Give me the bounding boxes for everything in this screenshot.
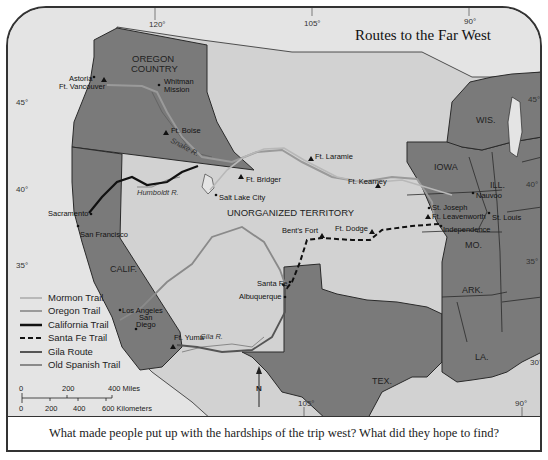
longitude-label: 105° [298, 399, 315, 408]
latitude-label: 30° [530, 358, 542, 367]
place-label-ft-yuma: Ft. Yuma [174, 333, 205, 342]
latitude-label: 45° [528, 95, 540, 104]
city-dot-icon [158, 84, 161, 87]
legend-label: Old Spanish Trail [48, 359, 120, 370]
place-label-ft-dodge: Ft. Dodge [335, 224, 368, 233]
state-label-ark: ARK. [462, 285, 483, 295]
legend-label: California Trail [48, 319, 109, 330]
place-label-albuquerque: Albuquerque [239, 292, 282, 301]
legend-label: Santa Fe Trail [48, 332, 107, 343]
place-label-ft-kearney: Ft. Kearney [348, 177, 387, 186]
scale-miles-tick: 200 [62, 384, 75, 393]
state-label-ill: ILL. [490, 180, 505, 190]
place-label-nauvoo: Nauvoo [476, 191, 502, 200]
state-label-wis: WIS. [476, 115, 496, 125]
city-dot-icon [428, 207, 431, 210]
place-label-diego: Diego [136, 320, 156, 329]
place-label-san-francisco: San Francisco [80, 230, 128, 239]
scale-km-tick: 600 Kilometers [102, 404, 152, 413]
compass-label: N [256, 384, 262, 393]
longitude-label: 120° [149, 20, 166, 29]
latitude-label: 40° [526, 180, 538, 189]
region-label-country: COUNTRY [131, 63, 178, 74]
legend-label: Oregon Trail [48, 305, 100, 316]
city-dot-icon [119, 309, 122, 312]
map: Routes to the Far West OREGON COUNTRY UN… [8, 8, 542, 418]
caption-box: What made people put up with the hardshi… [6, 416, 542, 452]
region-label-unorganized: UNORGANIZED TERRITORY [227, 207, 355, 218]
place-label-ft-boise: Ft. Boise [171, 126, 201, 135]
city-dot-icon [77, 225, 80, 228]
place-label-salt-lake-city: Salt Lake City [219, 193, 266, 202]
place-label-independence: Independence [443, 225, 491, 234]
map-title: Routes to the Far West [355, 27, 492, 43]
place-label-st-joseph: St. Joseph [432, 203, 467, 212]
place-label-ft-leavenworth: Ft. Leavenworth [432, 212, 486, 221]
city-dot-icon [488, 212, 491, 215]
scale-miles-tick: 400 Miles [108, 384, 140, 393]
latitude-label: 45° [16, 98, 28, 107]
scale-km-tick: 0 [19, 404, 23, 413]
state-label-mo: MO. [465, 240, 482, 250]
place-label-bents-fort: Bent's Fort [282, 226, 319, 235]
legend-label: Gila Route [48, 346, 93, 357]
place-label-ft-vancouver: Ft. Vancouver [59, 82, 106, 91]
scale-km-tick: 400 [73, 404, 86, 413]
scale-km-tick: 200 [45, 404, 58, 413]
city-dot-icon [472, 192, 475, 195]
state-label-iowa: IOWA [434, 162, 458, 172]
city-dot-icon [215, 194, 218, 197]
state-label-calif: CALIF. [110, 264, 137, 274]
latitude-label: 35° [526, 257, 538, 266]
latitude-label: 40° [16, 185, 28, 194]
longitude-label: 90° [464, 17, 476, 26]
river-label-humboldt: Humboldt R. [137, 188, 179, 197]
place-label-sacramento: Sacramento [48, 209, 88, 218]
legend-label: Mormon Trail [48, 292, 103, 303]
caption-text: What made people put up with the hardshi… [49, 426, 499, 441]
map-frame: Routes to the Far West OREGON COUNTRY UN… [6, 6, 542, 418]
city-dot-icon [289, 281, 292, 284]
latitude-label: 35° [16, 261, 28, 270]
longitude-label: 105° [304, 19, 321, 28]
place-label-mission: Mission [164, 85, 189, 94]
city-dot-icon [284, 296, 287, 299]
place-label-st-louis: St. Louis [492, 213, 521, 222]
scale-miles-tick: 0 [19, 384, 23, 393]
longitude-label: 90° [515, 399, 527, 408]
state-label-tex: TEX. [372, 376, 392, 386]
city-dot-icon [93, 76, 96, 79]
city-dot-icon [90, 213, 93, 216]
state-label-la: LA. [475, 352, 489, 362]
place-label-ft-laramie: Ft. Laramie [315, 152, 353, 161]
place-label-ft-bridger: Ft. Bridger [246, 175, 282, 184]
city-dot-icon [440, 225, 443, 228]
place-label-santa-fe: Santa Fe [257, 279, 287, 288]
